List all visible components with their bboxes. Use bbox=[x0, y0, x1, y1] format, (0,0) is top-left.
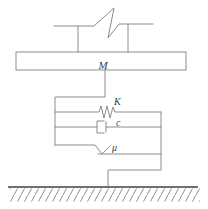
system-diagram: M K c μ bbox=[0, 0, 208, 209]
ground bbox=[8, 187, 200, 202]
spring-label: K bbox=[113, 96, 122, 107]
support-break-line bbox=[54, 8, 153, 38]
friction-label: μ bbox=[111, 142, 117, 153]
diagram-strokes bbox=[16, 8, 186, 187]
damper-cylinder bbox=[97, 121, 104, 133]
mass-to-stack-link bbox=[55, 70, 105, 145]
mass-label: M bbox=[97, 59, 108, 71]
diagram-canvas: M K c μ bbox=[0, 0, 208, 209]
damper-label: c bbox=[116, 117, 121, 128]
ground-hatching bbox=[10, 189, 200, 202]
spring-element bbox=[55, 106, 161, 118]
friction-element bbox=[55, 145, 110, 154]
